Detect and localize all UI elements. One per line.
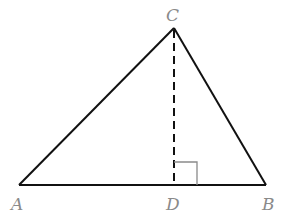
- right-angle-marker: [174, 162, 197, 185]
- label-b: B: [261, 194, 275, 214]
- label-a: A: [9, 194, 23, 214]
- label-d: D: [165, 194, 180, 214]
- segment-ac: [19, 28, 174, 185]
- triangle-diagram: C A D B: [0, 0, 295, 221]
- label-c: C: [166, 5, 179, 25]
